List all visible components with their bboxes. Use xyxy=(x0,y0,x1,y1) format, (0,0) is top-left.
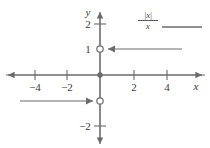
y-tick-label-1: 1 xyxy=(85,43,91,55)
legend-function-label: |x| x xyxy=(137,11,159,31)
legend-numerator: |x| xyxy=(137,11,159,20)
x-tick-label-neg2: −2 xyxy=(61,81,73,93)
graph-figure: y x −4 −2 2 4 2 1 −2 |x| x xyxy=(0,0,210,148)
x-tick-label-4: 4 xyxy=(164,81,170,93)
legend-denominator: x xyxy=(137,22,159,31)
y-axis-label: y xyxy=(85,6,91,18)
x-axis-label: x xyxy=(193,80,199,92)
y-tick-label-neg2: −2 xyxy=(79,120,91,132)
y-tick-label-2: 2 xyxy=(85,18,91,30)
open-point-0-neg1 xyxy=(97,98,103,104)
x-tick-label-2: 2 xyxy=(131,81,137,93)
x-tick-label-neg4: −4 xyxy=(29,81,41,93)
coordinate-plane: y x −4 −2 2 4 2 1 −2 xyxy=(0,0,210,148)
origin-dot xyxy=(97,72,102,77)
open-point-0-1 xyxy=(97,46,103,52)
